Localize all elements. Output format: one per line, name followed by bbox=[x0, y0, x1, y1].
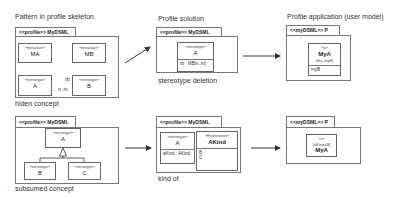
instance-mya: «a» {aKind=B} MyA bbox=[306, 134, 337, 157]
class-name: C bbox=[69, 170, 100, 177]
generalization-triangle-icon bbox=[60, 148, 67, 156]
enum-literals: B C bbox=[197, 148, 237, 161]
class-name: B bbox=[25, 170, 55, 177]
attribute-akind: aKind : AKind bbox=[161, 149, 194, 157]
stereotype-c: «stereotype» C bbox=[68, 162, 101, 180]
enum-name: AKind bbox=[197, 139, 237, 146]
stereotype-b: «stereotype» B bbox=[24, 162, 56, 180]
caption-subsumed-concept: subsumed concept bbox=[15, 185, 74, 193]
caption-kind-of: kind of bbox=[158, 175, 179, 183]
enumeration-akind: «Enumeration» AKind B C bbox=[196, 131, 238, 171]
stereotype-a: «stereotype» A aKind : AKind bbox=[160, 132, 195, 164]
class-name: A bbox=[161, 140, 194, 147]
enum-literal-c: C bbox=[199, 155, 235, 160]
instance-name: MyA bbox=[307, 147, 336, 154]
